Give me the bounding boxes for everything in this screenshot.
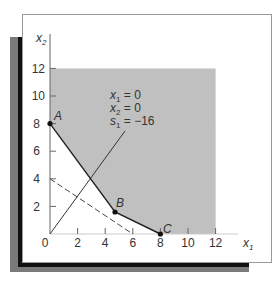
svg-text:10: 10 (32, 89, 46, 103)
lp-graph: A B C 2 4 6 8 10 12 0 2 4 6 8 10 12 x2 x… (0, 0, 277, 291)
svg-text:2: 2 (74, 236, 81, 250)
svg-text:10: 10 (181, 236, 195, 250)
y-tick-labels: 2 4 6 8 10 12 (32, 62, 46, 214)
x-axis-label: x1 (242, 236, 253, 252)
point-a-label: A (53, 109, 62, 123)
point-b-label: B (116, 196, 124, 210)
y-axis-label: x2 (35, 31, 47, 47)
svg-text:4: 4 (33, 172, 40, 186)
point-a (47, 121, 52, 126)
svg-text:6: 6 (129, 236, 136, 250)
point-b (112, 209, 117, 214)
svg-text:0: 0 (42, 236, 49, 250)
svg-text:12: 12 (32, 62, 46, 76)
x-tick-labels: 0 2 4 6 8 10 12 (42, 236, 223, 250)
svg-text:6: 6 (33, 144, 40, 158)
svg-text:4: 4 (102, 236, 109, 250)
svg-text:8: 8 (157, 236, 164, 250)
svg-text:12: 12 (209, 236, 223, 250)
svg-text:2: 2 (33, 200, 40, 214)
svg-text:8: 8 (33, 117, 40, 131)
point-c-label: C (163, 222, 172, 236)
